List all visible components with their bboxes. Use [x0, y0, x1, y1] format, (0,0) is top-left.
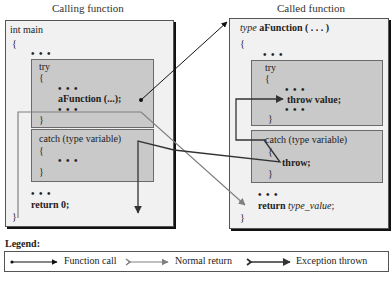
legend-normal-return-label: Normal return [175, 255, 232, 266]
legend-call-arrow-icon [10, 260, 57, 263]
exception-throw-value-arrow [236, 99, 283, 140]
legend-exception-arrow-icon [247, 259, 290, 265]
legend-exception-thrown-label: Exception thrown [296, 255, 367, 266]
function-call-arrow [139, 22, 227, 102]
legend-box: Function call Normal return Exception th… [4, 251, 389, 272]
legend-function-call-label: Function call [64, 255, 117, 266]
flow-arrows [0, 0, 392, 282]
legend-title: Legend: [5, 238, 40, 250]
exception-rethrow-arrow [138, 140, 280, 213]
legend-return-arrow-icon [126, 259, 168, 265]
normal-return-arrow [18, 112, 245, 218]
